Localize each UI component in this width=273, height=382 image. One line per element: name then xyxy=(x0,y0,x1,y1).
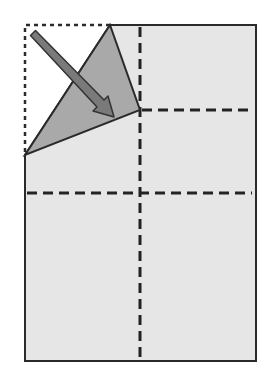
diagram-canvas xyxy=(0,0,273,382)
folding-diagram xyxy=(0,0,273,382)
